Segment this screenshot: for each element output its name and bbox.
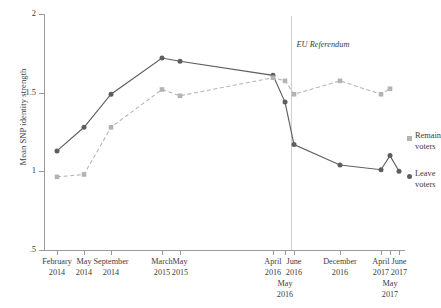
data-point-marker [160, 56, 165, 61]
legend-marker-circle-icon [407, 174, 412, 179]
data-point-marker [109, 125, 114, 130]
data-point-marker [292, 142, 297, 147]
legend-marker-square-icon [407, 136, 412, 141]
data-point-marker [55, 175, 60, 180]
legend-label-line2: voters [415, 142, 441, 153]
legend-label: Leavevoters [415, 169, 435, 190]
data-point-marker [338, 79, 343, 84]
data-point-marker [178, 59, 183, 64]
legend-label-line1: Leave [415, 169, 435, 180]
series-line-leave-voters [57, 58, 399, 171]
data-point-marker [388, 153, 393, 158]
legend-label: Remainvoters [415, 131, 441, 152]
data-point-marker [388, 86, 393, 91]
data-point-marker [82, 172, 87, 177]
data-point-marker [379, 92, 384, 97]
data-point-marker [283, 79, 288, 84]
data-point-marker [283, 100, 288, 105]
series-line-remain-voters [57, 78, 390, 177]
legend-label-line1: Remain [415, 131, 441, 142]
data-point-marker [379, 167, 384, 172]
data-point-marker [82, 125, 87, 130]
data-point-marker [397, 169, 402, 174]
data-point-marker [109, 92, 114, 97]
data-point-marker [271, 75, 276, 80]
data-point-marker [178, 94, 183, 99]
data-point-marker [55, 148, 60, 153]
data-point-marker [292, 92, 297, 97]
data-point-marker [160, 87, 165, 92]
legend-label-line2: voters [415, 180, 435, 191]
data-point-marker [338, 163, 343, 168]
